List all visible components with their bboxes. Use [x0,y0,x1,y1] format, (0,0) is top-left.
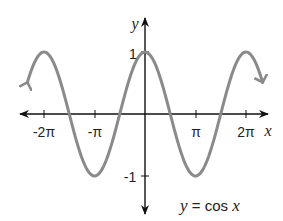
x-tick-label-2pi: 2π [237,124,255,140]
cosine-graph: -2π -π π 2π 1 -1 y x y = cos x [0,0,283,221]
y-axis-label: y [129,15,139,33]
x-axis-label: x [263,122,271,139]
equation-label: y = cos x [178,196,240,215]
equation-middle: = cos [188,197,233,214]
equation-y: y [178,196,188,215]
equation-x: x [231,196,240,215]
x-tick-label-neg2pi: -2π [33,124,55,140]
y-tick-label-1: 1 [129,46,137,62]
x-tick-label-pi: π [191,124,201,140]
x-tick-label-negpi: -π [88,124,103,140]
y-tick-label-neg1: -1 [124,169,137,185]
